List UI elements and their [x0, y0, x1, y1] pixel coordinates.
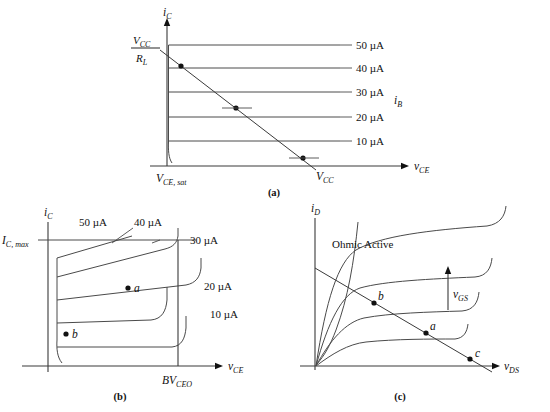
panel-b-caption: (b) [114, 391, 127, 403]
panel-b-point-b-label: b [72, 328, 78, 340]
panel-c-point-c-label: c [475, 347, 480, 359]
panel-a-y-intercept-denominator: RL [135, 52, 148, 67]
panel-b-y-axis-label: iC [44, 206, 53, 221]
panel-b-label-40ua: 40 µA [134, 216, 162, 228]
panel-c-point-c [467, 356, 472, 361]
panel-a-label-30ua: 30 µA [356, 86, 384, 98]
panel-b-point-a [125, 285, 130, 290]
panel-c-vgs-arrow-group: vGS [445, 266, 468, 310]
panel-b-curve-30ua [57, 258, 201, 300]
panel-b-curve-20ua [57, 287, 167, 323]
panel-a-saturation-knee [168, 45, 172, 163]
panel-c-x-axis-label: vDS [504, 360, 519, 375]
panel-c-vgs-label: vGS [453, 288, 468, 303]
panel-c-curve-level2 [316, 292, 479, 366]
panel-a-label-40ua: 40 µA [356, 62, 384, 74]
panel-b-label-30ua: 30 µA [190, 234, 218, 246]
panel-a-y-intercept-numerator: VCC [133, 34, 151, 49]
panel-a-label-20ua: 20 µA [356, 111, 384, 123]
panel-a-x-arrow [401, 163, 409, 169]
panel-a-y-intercept-label: VCC RL [131, 34, 160, 67]
figure-container: iC VCC RL vCE VCE, sat VCC iB 50 µA 40 µ… [0, 0, 550, 412]
panel-b-point-a-label: a [134, 282, 140, 294]
panel-c-x-arrow [492, 363, 500, 369]
panel-c-vgs-arrow-head [445, 266, 451, 274]
panel-c-load-line [315, 268, 492, 372]
panel-b-leader-50ua [112, 228, 133, 243]
panel-b-label-20ua: 20 µA [204, 280, 232, 292]
panel-b-icmax-label: IC, max [1, 234, 29, 249]
panel-a: iC VCC RL vCE VCE, sat VCC iB 50 µA 40 µ… [131, 6, 429, 199]
panel-b-label-10ua: 10 µA [210, 308, 238, 320]
panel-a-caption: (a) [268, 187, 281, 199]
panel-b-label-50ua: 50 µA [79, 216, 107, 228]
panel-c-point-a-label: a [430, 320, 436, 332]
panel-a-point-2-group [222, 105, 252, 110]
panel-c: vGS b a c Ohmic Active iD vDS (c) [300, 202, 519, 403]
panel-a-vce-sat-label: VCE, sat [156, 172, 187, 187]
panel-c-y-axis-label: iD [311, 202, 320, 217]
panel-a-x-axis-label: vCE [414, 160, 429, 175]
panel-b-bvceo-label: BVCEO [162, 374, 192, 389]
panel-a-label-50ua: 50 µA [356, 39, 384, 51]
panel-a-y-axis-label: iC [163, 6, 172, 21]
panel-a-point-3-group [289, 155, 319, 160]
panel-b-point-b [63, 331, 68, 336]
panel-a-vcc-label: VCC [316, 170, 334, 185]
panel-c-point-b-label: b [378, 290, 384, 302]
figure-svg: iC VCC RL vCE VCE, sat VCC iB 50 µA 40 µ… [0, 0, 550, 412]
panel-a-ib-label: iB [394, 94, 402, 109]
panel-c-point-b [371, 300, 376, 305]
panel-c-caption: (c) [394, 391, 406, 403]
panel-c-point-a [423, 330, 428, 335]
panel-b-x-axis-label: vCE [228, 360, 243, 375]
panel-b: a b iC vCE IC, max BVCEO 50 µA 40 µA 30 … [1, 206, 243, 403]
panel-c-curve-level4 [316, 206, 506, 366]
panel-a-point-1 [178, 63, 183, 68]
panel-a-label-10ua: 10 µA [356, 135, 384, 147]
panel-b-curve-50ua [57, 236, 132, 258]
panel-c-ohmic-label: Ohmic [332, 238, 362, 250]
panel-c-active-label: Active [364, 238, 393, 250]
panel-b-x-arrow [215, 363, 223, 369]
